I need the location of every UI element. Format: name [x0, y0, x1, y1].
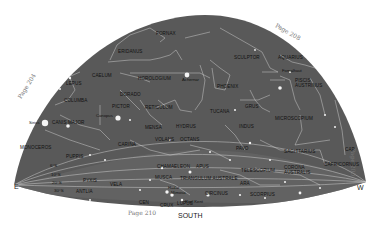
label-volans: VOLANS: [155, 138, 174, 143]
star-canopus: Canopus: [96, 114, 113, 118]
label-lepus: LEPUS: [66, 82, 82, 87]
label-dorado: DORADO: [120, 93, 141, 98]
label-puppis: PUPPIS: [66, 155, 83, 160]
label-scorpius: SCORPIUS: [250, 193, 275, 198]
label-sculptor: SCULPTOR: [234, 56, 260, 61]
label-apus: APUS: [196, 165, 209, 170]
label-musca: MUSCA: [155, 176, 172, 181]
label-aquarius: AQUARIUS: [278, 56, 303, 61]
label-reticulum: RETICULUM: [145, 106, 173, 111]
label-pictor: PICTOR: [112, 105, 130, 110]
label-columba: COLUMBA: [64, 99, 87, 104]
label-telescopium: TELESCOPIUM: [241, 169, 275, 174]
label-horologium: HOROLOGIUM: [138, 77, 171, 82]
star-achernar: Achernar: [182, 78, 199, 82]
latitude-6s: 6°S: [50, 163, 57, 168]
label-vela: VELA: [110, 183, 122, 188]
label-corona-australis: CORONA AUSTRALIS: [284, 166, 314, 175]
label-fornax: FORNAX: [156, 32, 176, 37]
label-phoenix: PHOENIX: [217, 85, 238, 90]
label-canis-major: CANIS MAJOR: [52, 121, 85, 126]
star-sirius: Sirius: [29, 121, 39, 125]
label-grus: GRUS: [245, 105, 259, 110]
label-triangulum-australe: TRIANGULUM AUSTRALE: [180, 177, 238, 182]
label-circinus: CIRCINUS: [205, 192, 228, 197]
label-ara: ARA: [240, 182, 250, 187]
compass-east: E: [14, 183, 19, 190]
latitude-30s: 30°S: [54, 188, 64, 193]
label-chamaeleon: CHAMAELEON: [157, 165, 190, 170]
label-carina: CARINA: [118, 143, 136, 148]
star-fomalhaut: Fomalhaut: [282, 69, 302, 73]
label-capricornus: CAPRICORNUS: [324, 163, 359, 168]
label-antlia: ANTLIA: [76, 190, 93, 195]
label-tucana: TUCANA: [210, 110, 230, 115]
star-mimosa: Mimosa: [171, 191, 186, 195]
label-pavo: PAVO: [236, 147, 248, 152]
label-piscis-austrinus: PISCIS AUSTRINUS: [295, 79, 325, 88]
label-caelum: CAELUM: [92, 74, 112, 79]
label-octans: OCTANS: [180, 138, 199, 143]
latitude-10s: 10°S: [51, 172, 61, 177]
label-hydrus: HYDRUS: [176, 125, 196, 130]
compass-south: SOUTH: [178, 212, 203, 219]
page-ref-bottom[interactable]: Page 210: [128, 209, 156, 216]
label-crux: CRUX: [160, 204, 173, 209]
star-rigil-kent: Rigil Kent: [185, 200, 203, 204]
label-microscopium: MICROSCOPIUM: [275, 117, 313, 122]
compass-west: W: [357, 184, 364, 191]
latitude-20s: 20°S: [52, 180, 62, 185]
label-mensa: MENSA: [145, 126, 162, 131]
label-sagittarius: SAGITTARIUS: [284, 150, 315, 155]
label-centaurus: CEN: [139, 201, 149, 206]
label-eridanus: ERIDANUS: [118, 50, 143, 55]
label-pyxis: PYXIS: [83, 179, 97, 184]
label-monoceros: MONOCEROS: [20, 146, 52, 151]
label-indus: INDUS: [239, 125, 254, 130]
label-cap-short: CAP: [345, 148, 355, 153]
